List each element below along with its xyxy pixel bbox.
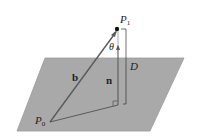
label-d: D xyxy=(130,61,138,72)
label-theta: θ xyxy=(109,42,114,52)
diagram-canvas xyxy=(0,0,201,140)
vector-b-arrowhead xyxy=(111,30,117,37)
label-p0: P0 xyxy=(35,115,45,128)
point-p1 xyxy=(115,27,119,31)
vector-n-arrowhead xyxy=(116,44,120,50)
label-p1: P1 xyxy=(120,14,130,27)
label-b: b xyxy=(72,72,78,83)
label-n: n xyxy=(106,75,112,86)
